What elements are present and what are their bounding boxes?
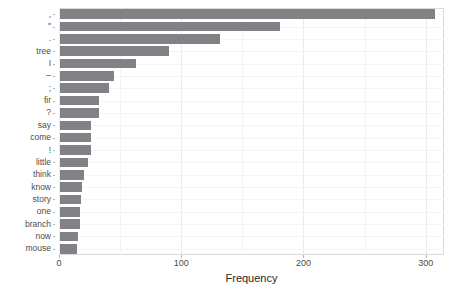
- x-tick-label: 300: [418, 259, 433, 268]
- x-tick-label: 200: [296, 259, 311, 268]
- y-tick-label: mouse: [25, 244, 51, 253]
- bar: [60, 59, 136, 69]
- y-tick-mark: [53, 76, 55, 77]
- bar: [60, 244, 77, 254]
- y-tick-mark: [53, 199, 55, 200]
- bar: [60, 158, 88, 168]
- y-tick-mark: [53, 187, 55, 188]
- bar: [60, 96, 99, 106]
- x-axis-title: Frequency: [59, 272, 444, 284]
- y-tick-label: ;: [49, 84, 51, 93]
- y-tick-mark: [53, 88, 55, 89]
- x-axis: 0100200300: [59, 255, 444, 273]
- y-tick-mark: [53, 14, 55, 15]
- bar: [60, 219, 80, 229]
- y-tick-mark: [53, 236, 55, 237]
- y-tick-mark: [53, 150, 55, 151]
- y-tick-mark: [53, 249, 55, 250]
- y-tick-label: ?: [46, 108, 51, 117]
- y-tick-label: ,: [49, 10, 51, 19]
- y-tick-mark: [53, 224, 55, 225]
- y-tick-label: ": [48, 22, 51, 31]
- y-tick-label: tree: [36, 47, 51, 56]
- bar: [60, 108, 99, 118]
- y-tick-label: .: [49, 34, 51, 43]
- y-tick-label: branch: [25, 220, 51, 229]
- y-tick-label: say: [38, 121, 51, 130]
- bar: [60, 170, 84, 180]
- y-tick-label: !: [49, 146, 51, 155]
- bar: [60, 9, 435, 19]
- y-tick-mark: [53, 113, 55, 114]
- y-tick-label: fir: [44, 96, 51, 105]
- y-tick-label: one: [37, 207, 51, 216]
- bar: [60, 83, 109, 93]
- y-tick-mark: [53, 175, 55, 176]
- y-tick-label: know: [31, 183, 51, 192]
- y-tick-mark: [53, 39, 55, 40]
- y-tick-label: come: [30, 133, 51, 142]
- bar: [60, 34, 220, 44]
- word-frequency-bar-chart: ,".treeI–;fir?saycome!littlethinkknowsto…: [0, 0, 451, 295]
- y-tick-label: story: [33, 195, 51, 204]
- y-tick-label: I: [49, 59, 51, 68]
- bar: [60, 22, 280, 32]
- y-tick-mark: [53, 101, 55, 102]
- x-tick-label: 0: [56, 259, 61, 268]
- y-axis: ,".treeI–;fir?saycome!littlethinkknowsto…: [0, 8, 55, 255]
- y-tick-mark: [53, 212, 55, 213]
- y-tick-label: –: [46, 71, 51, 80]
- bar: [60, 46, 169, 56]
- plot-panel: [59, 8, 444, 255]
- x-tick-label: 100: [174, 259, 189, 268]
- bar-series: [59, 8, 444, 255]
- bar: [60, 232, 78, 242]
- y-tick-mark: [53, 51, 55, 52]
- y-tick-mark: [53, 27, 55, 28]
- bar: [60, 145, 91, 155]
- y-tick-mark: [53, 138, 55, 139]
- bar: [60, 195, 81, 205]
- y-tick-label: little: [36, 158, 51, 167]
- y-tick-label: think: [33, 170, 51, 179]
- y-tick-mark: [53, 64, 55, 65]
- bar: [60, 133, 91, 143]
- bar: [60, 121, 91, 131]
- y-tick-label: now: [35, 232, 51, 241]
- y-tick-mark: [53, 125, 55, 126]
- bar: [60, 207, 80, 217]
- bar: [60, 71, 114, 81]
- bar: [60, 182, 82, 192]
- y-tick-mark: [53, 162, 55, 163]
